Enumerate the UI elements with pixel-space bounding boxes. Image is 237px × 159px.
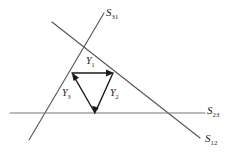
subscript-s23: 23: [213, 111, 220, 118]
vector-y3: [72, 73, 95, 114]
label-vector-y2: Y2: [110, 88, 119, 100]
label-line-s31: S31: [106, 7, 119, 21]
subscript-y3: 3: [68, 93, 71, 100]
vector-y1: [72, 70, 114, 77]
subscript-y2: 2: [116, 93, 119, 100]
label-vector-y3: Y3: [62, 88, 71, 100]
subscript-y1: 1: [92, 61, 95, 68]
figure-canvas: [0, 0, 237, 159]
label-line-s12: S12: [205, 133, 218, 147]
subscript-s31: 31: [112, 13, 119, 20]
geometry-figure: S31 S23 S12 Y1 Y2 Y3: [0, 0, 237, 159]
line-s31: [29, 13, 104, 140]
label-vector-y1: Y1: [86, 56, 95, 68]
subscript-s12: 12: [211, 139, 218, 146]
label-line-s23: S23: [207, 105, 220, 119]
